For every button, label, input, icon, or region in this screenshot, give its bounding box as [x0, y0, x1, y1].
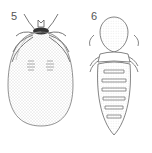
tick-figure: [8, 14, 73, 126]
louse-figure: [90, 17, 139, 135]
illustration: [0, 0, 152, 153]
